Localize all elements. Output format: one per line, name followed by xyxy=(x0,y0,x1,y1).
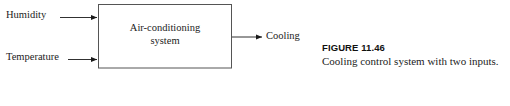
system-block-label: Air-conditioning system xyxy=(100,22,230,47)
system-block-label-line-2: system xyxy=(100,35,230,48)
temperature-input-label: Temperature xyxy=(6,51,59,62)
figure-caption-title: FIGURE 11.46 xyxy=(322,42,508,54)
figure-caption-text: Cooling control system with two inputs. xyxy=(322,55,508,68)
cooling-output-label: Cooling xyxy=(266,30,300,41)
system-block-label-line-1: Air-conditioning xyxy=(100,22,230,35)
figure-container: Air-conditioning system Humidity Tempera… xyxy=(0,0,510,106)
humidity-input-label: Humidity xyxy=(6,9,46,20)
figure-caption: FIGURE 11.46 Cooling control system with… xyxy=(322,42,508,68)
